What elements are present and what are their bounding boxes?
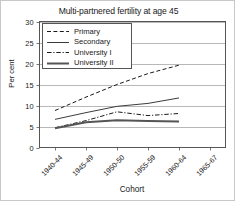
legend-line-swatch xyxy=(46,37,70,47)
y-tick-label: 10 xyxy=(12,102,34,111)
legend-label: University II xyxy=(74,58,114,67)
legend-item: Secondary xyxy=(46,37,131,48)
legend-label: Secondary xyxy=(74,37,110,46)
legend-label: University I xyxy=(74,48,112,57)
y-tick-label: 5 xyxy=(12,123,34,132)
y-tick-label: 20 xyxy=(12,60,34,69)
y-tick-label: 25 xyxy=(12,39,34,48)
legend-item: University II xyxy=(46,58,131,69)
legend-item: University I xyxy=(46,47,131,58)
y-tick-label: 15 xyxy=(12,81,34,90)
legend-item: Primary xyxy=(46,26,131,37)
series-lines xyxy=(55,65,179,128)
legend-line-swatch xyxy=(46,47,70,57)
series-line xyxy=(55,65,179,110)
series-line xyxy=(55,120,179,128)
chart-legend: PrimarySecondaryUniversity IUniversity I… xyxy=(42,23,132,69)
legend-line-swatch xyxy=(46,26,70,36)
legend-label: Primary xyxy=(74,27,100,36)
y-tick-label: 30 xyxy=(12,18,34,27)
legend-line-swatch xyxy=(46,58,70,68)
y-tick-label: 0 xyxy=(12,144,34,153)
chart-figure: Multi-partnered fertility at age 45 Per … xyxy=(0,0,235,201)
series-line xyxy=(55,98,179,119)
